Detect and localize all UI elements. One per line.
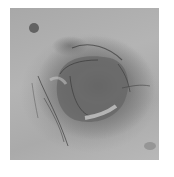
micrograph-image bbox=[10, 8, 159, 160]
dark-spot bbox=[29, 23, 39, 33]
micrograph-structures bbox=[10, 8, 159, 160]
